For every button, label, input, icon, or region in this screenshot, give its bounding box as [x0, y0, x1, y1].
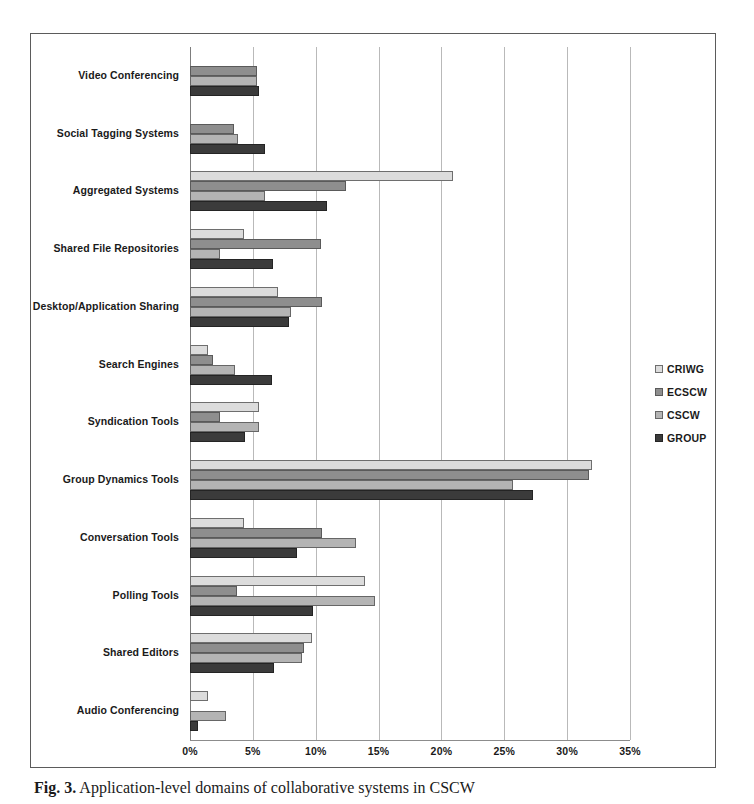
bar-cscw	[190, 249, 220, 259]
x-axis-baseline	[190, 740, 630, 741]
bar-cscw	[190, 365, 235, 375]
bar-cscw	[190, 422, 259, 432]
x-tick-label: 35%	[619, 745, 641, 757]
category-label: Shared File Repositories	[53, 242, 179, 254]
legend-item-criwg[interactable]: CRIWG	[655, 363, 747, 375]
bar-group	[190, 432, 245, 442]
category-label: Polling Tools	[113, 589, 179, 601]
legend-swatch-icon	[655, 434, 663, 442]
category-label: Audio Conferencing	[77, 704, 179, 716]
bar-criwg	[190, 691, 208, 701]
bar-group: Polling Tools	[190, 576, 630, 616]
legend-item-ecscw[interactable]: ECSCW	[655, 386, 747, 398]
figure-container: Video ConferencingSocial Tagging Systems…	[0, 0, 754, 804]
category-label: Conversation Tools	[80, 531, 179, 543]
bar-criwg	[190, 402, 259, 412]
category-label: Search Engines	[99, 358, 179, 370]
bar-cscw	[190, 134, 238, 144]
bar-chart-plot-area: Video ConferencingSocial Tagging Systems…	[190, 47, 630, 740]
bar-group: Conversation Tools	[190, 518, 630, 558]
bar-criwg	[190, 287, 278, 297]
x-tick-label: 10%	[305, 745, 327, 757]
bar-group: Search Engines	[190, 345, 630, 385]
caption-figure-number: Fig. 3.	[34, 779, 76, 796]
category-label: Syndication Tools	[88, 415, 179, 427]
bar-ecscw	[190, 66, 257, 76]
x-tick-label: 5%	[245, 745, 261, 757]
bar-cscw	[190, 538, 356, 548]
bar-ecscw	[190, 470, 589, 480]
bar-group	[190, 375, 272, 385]
bar-group	[190, 201, 327, 211]
gridline-35	[630, 47, 631, 740]
bar-ecscw	[190, 643, 304, 653]
legend-swatch-icon	[655, 365, 663, 373]
caption-text: Application-level domains of collaborati…	[76, 779, 475, 796]
bar-group: Shared File Repositories	[190, 229, 630, 269]
x-tick-label: 30%	[556, 745, 578, 757]
bar-ecscw	[190, 355, 213, 365]
bar-ecscw	[190, 528, 322, 538]
bar-cscw	[190, 653, 302, 663]
category-label: Video Conferencing	[78, 69, 179, 81]
bar-cscw	[190, 307, 291, 317]
bar-criwg	[190, 518, 244, 528]
bar-criwg	[190, 345, 208, 355]
bar-ecscw	[190, 586, 237, 596]
legend-item-cscw[interactable]: CSCW	[655, 409, 747, 421]
bar-group	[190, 259, 273, 269]
bar-cscw	[190, 596, 375, 606]
bar-group: Social Tagging Systems	[190, 114, 630, 154]
bar-cscw	[190, 76, 257, 86]
bar-group	[190, 317, 289, 327]
legend-item-group[interactable]: GROUP	[655, 432, 747, 444]
bar-group	[190, 721, 198, 731]
bar-cscw	[190, 480, 513, 490]
bar-group: Group Dynamics Tools	[190, 460, 630, 500]
bar-cscw	[190, 191, 265, 201]
bar-criwg	[190, 633, 312, 643]
bar-group: Desktop/Application Sharing	[190, 287, 630, 327]
bar-ecscw	[190, 412, 220, 422]
bar-ecscw	[190, 239, 321, 249]
bar-group: Aggregated Systems	[190, 171, 630, 211]
bar-group	[190, 663, 274, 673]
x-tick-label: 25%	[493, 745, 515, 757]
bar-group	[190, 548, 297, 558]
bar-ecscw	[190, 181, 346, 191]
category-label: Desktop/Application Sharing	[33, 300, 179, 312]
x-tick-label: 15%	[368, 745, 390, 757]
bar-group	[190, 86, 259, 96]
x-tick-label: 20%	[431, 745, 453, 757]
bar-group: Video Conferencing	[190, 56, 630, 96]
category-label: Shared Editors	[103, 646, 179, 658]
legend-swatch-icon	[655, 411, 663, 419]
category-label: Group Dynamics Tools	[63, 473, 179, 485]
bar-group	[190, 490, 533, 500]
legend-label: CSCW	[667, 409, 700, 421]
legend-swatch-icon	[655, 388, 663, 396]
legend-label: GROUP	[667, 432, 707, 444]
legend-label: CRIWG	[667, 363, 704, 375]
bar-ecscw	[190, 297, 322, 307]
bar-group	[190, 144, 265, 154]
bar-criwg	[190, 460, 592, 470]
bar-group: Syndication Tools	[190, 402, 630, 442]
category-label: Aggregated Systems	[73, 184, 179, 196]
category-label: Social Tagging Systems	[57, 127, 179, 139]
bar-group: Shared Editors	[190, 633, 630, 673]
bar-group: Audio Conferencing	[190, 691, 630, 731]
chart-legend: CRIWGECSCWCSCWGROUP	[655, 363, 747, 455]
bar-cscw	[190, 711, 226, 721]
bar-criwg	[190, 171, 453, 181]
bar-criwg	[190, 229, 244, 239]
figure-caption: Fig. 3. Application-level domains of col…	[34, 779, 724, 797]
bar-ecscw	[190, 124, 234, 134]
bar-criwg	[190, 576, 365, 586]
x-tick-label: 0%	[182, 745, 198, 757]
legend-label: ECSCW	[667, 386, 707, 398]
bar-group	[190, 606, 313, 616]
